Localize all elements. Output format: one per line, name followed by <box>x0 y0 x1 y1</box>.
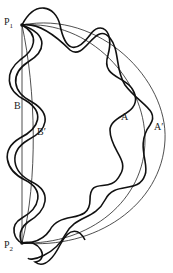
label-B-prime: B′ <box>37 127 46 137</box>
label-B: B <box>14 101 21 111</box>
label-A-prime: A′ <box>154 122 163 132</box>
point-P1-dot <box>20 23 24 27</box>
label-P2: P2 <box>4 240 13 253</box>
wavy-path-A-prime <box>22 25 153 259</box>
path-diagram <box>0 0 173 273</box>
point-P2-dot <box>20 241 24 245</box>
label-P1: P1 <box>4 17 13 30</box>
label-A: A <box>121 112 128 122</box>
